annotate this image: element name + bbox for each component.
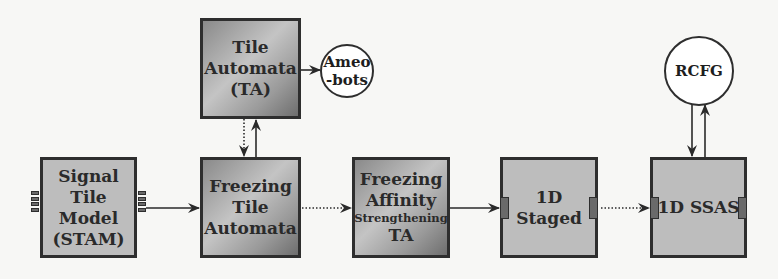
node-label-line: Tile: [204, 197, 297, 218]
node-1d-ssas: 1D SSAS: [650, 157, 747, 258]
1d-ssas-right-port-icon: [738, 197, 747, 219]
node-label-line: Freezing: [354, 169, 448, 190]
node-label-line: Model: [52, 208, 124, 229]
node-label-line: (TA): [204, 79, 297, 100]
1d-ssas-left-port-icon: [650, 197, 659, 219]
node-label-line: (STAM): [52, 229, 124, 250]
node-freezing-affinity-strengthening-ta: Freezing Affinity Strengthening TA: [352, 157, 450, 258]
node-label-line: Strengthening: [354, 211, 448, 225]
node-label-line: Freezing: [204, 176, 297, 197]
node-rcfg: RCFG: [664, 36, 734, 106]
node-label-line: -bots: [326, 71, 368, 89]
1d-staged-right-port-icon: [589, 197, 598, 219]
node-label-line: Ameo: [323, 53, 370, 71]
node-label-line: Signal: [52, 166, 124, 187]
node-label-line: Tile: [204, 37, 297, 58]
node-tile-automata: Tile Automata (TA): [200, 18, 301, 119]
1d-staged-left-port-icon: [500, 197, 509, 219]
node-freezing-tile-automata: Freezing Tile Automata: [200, 157, 301, 258]
node-label-line: Automata: [204, 218, 297, 239]
node-ameobots: Ameo -bots: [320, 44, 374, 98]
node-label-line: 1D: [516, 187, 582, 208]
node-signal-tile-model: Signal Tile Model (STAM): [40, 157, 137, 258]
node-label-line: Tile: [52, 187, 124, 208]
node-label-line: Automata: [204, 58, 297, 79]
node-label-line: Affinity: [354, 190, 448, 211]
node-1d-staged: 1D Staged: [500, 157, 598, 258]
node-label-line: 1D SSAS: [657, 197, 739, 218]
stam-right-glue-ports-icon: [138, 191, 146, 213]
node-label-line: TA: [354, 225, 448, 246]
node-label-line: Staged: [516, 208, 582, 229]
stam-left-glue-ports-icon: [31, 191, 39, 213]
node-label-line: RCFG: [675, 62, 723, 80]
